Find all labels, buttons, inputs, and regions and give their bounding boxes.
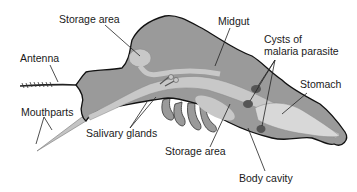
label-antenna: Antenna xyxy=(20,52,59,64)
label-mouthparts: Mouthparts xyxy=(21,106,74,118)
antenna-shape xyxy=(20,82,76,88)
label-storage-area-bottom: Storage area xyxy=(165,145,226,157)
mosquito-anatomy-diagram xyxy=(0,0,357,192)
cyst-3 xyxy=(257,125,266,133)
storage-area-top-shape xyxy=(129,49,151,67)
label-body-cavity: Body cavity xyxy=(239,172,293,184)
label-cysts-line2: malaria parasite xyxy=(264,45,339,57)
label-midgut: Midgut xyxy=(218,15,250,27)
cyst-2 xyxy=(243,100,253,108)
label-stomach: Stomach xyxy=(300,78,341,90)
label-storage-area-top: Storage area xyxy=(59,13,120,25)
mouthparts-shape xyxy=(37,117,86,151)
label-cysts-line1: Cysts of xyxy=(264,33,302,45)
label-salivary-glands: Salivary glands xyxy=(86,127,157,139)
